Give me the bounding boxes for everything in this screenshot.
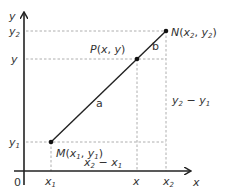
origin-label: 0 [14,176,21,189]
segment-label-b: b [152,40,159,53]
point-p-dot [135,57,140,62]
dx-label: x2 − x1 [83,156,122,170]
y1-tick-label: y1 [8,136,20,150]
y-axis-label: y [8,10,16,23]
x-tick-label: x [132,175,140,188]
y2-tick-label: y2 [8,25,21,39]
y-tick-label: y [10,53,18,66]
point-n-label: N(x2, y2) [171,26,217,40]
x-axis-label: x [192,176,200,189]
point-p-label: P(x, y) [90,43,125,56]
dy-label: y2 − y1 [171,94,210,108]
x2-tick-label: x2 [162,175,175,189]
x1-tick-label: x1 [44,175,56,189]
point-m-dot [49,140,54,145]
segment-label-a: a [96,97,103,110]
point-n-dot [164,29,169,34]
coordinate-diagram: y x 0 y2 y y1 x1 x x2 N(x2, y2) P(x, y) … [0,0,226,190]
